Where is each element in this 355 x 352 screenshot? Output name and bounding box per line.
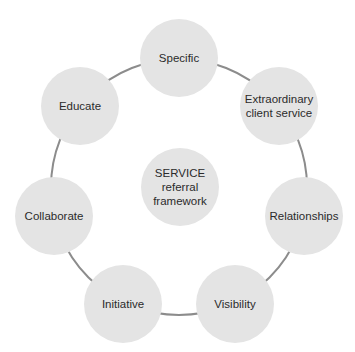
center-node: SERVICE referral framework <box>141 148 219 226</box>
node-extraordinary-client-service: Extraordinary client service <box>240 67 318 145</box>
node-visibility: Visibility <box>196 265 274 343</box>
node-relationships: Relationships <box>265 177 343 255</box>
node-label: Specific <box>159 51 199 65</box>
node-specific: Specific <box>140 19 218 97</box>
node-label: Extraordinary client service <box>245 92 313 120</box>
node-label: Visibility <box>214 297 255 311</box>
node-initiative: Initiative <box>84 265 162 343</box>
node-label: Initiative <box>102 297 144 311</box>
node-label: Collaborate <box>25 209 84 223</box>
node-educate: Educate <box>41 67 119 145</box>
node-label: Educate <box>59 99 101 113</box>
center-label: SERVICE referral framework <box>153 166 207 208</box>
node-label: Relationships <box>269 209 338 223</box>
node-collaborate: Collaborate <box>15 177 93 255</box>
